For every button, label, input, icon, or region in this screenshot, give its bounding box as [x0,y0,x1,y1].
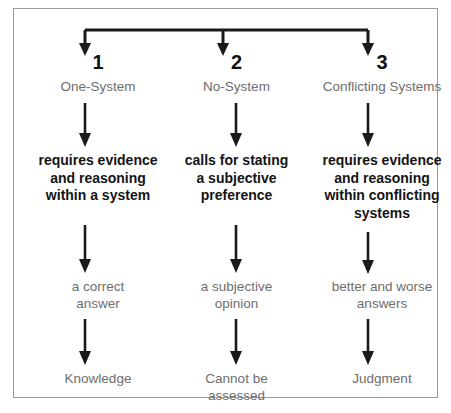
result-line: better and worse [297,278,451,295]
result-line: answer [19,295,177,312]
outcome-text: Judgment [297,370,451,387]
system-label: One-System [19,79,177,94]
diagram-frame: 1 One-System requires evidence and reaso… [13,8,438,398]
description-line: within conflicting [297,187,451,205]
outcome-line: Cannot be [164,370,309,387]
result-line: answers [297,295,451,312]
outcome-text: Cannot be assessed [164,370,309,404]
arrow-label-to-description [19,103,177,149]
column-numeral: 3 [297,51,451,74]
description-line: and reasoning [297,170,451,188]
outcome-line: Judgment [297,370,451,387]
description-line: and reasoning [19,170,177,188]
arrow-description-to-result [19,225,177,275]
description-line: calls for stating [164,152,309,170]
description-line: requires evidence [19,152,177,170]
description-line: preference [164,187,309,205]
column-numeral: 2 [164,51,309,74]
result-line: a subjective [164,278,309,295]
arrow-label-to-description [164,103,309,149]
description-text: requires evidence and reasoning within a… [19,152,177,205]
outcome-line: Knowledge [19,370,177,387]
system-label: Conflicting Systems [297,79,451,94]
result-text: better and worse answers [297,278,451,312]
arrow-label-to-description [297,103,451,149]
description-line: systems [297,205,451,223]
description-text: requires evidence and reasoning within c… [297,152,451,222]
description-line: a subjective [164,170,309,188]
result-text: a correct answer [19,278,177,312]
description-line: requires evidence [297,152,451,170]
arrow-description-to-result [164,225,309,275]
result-line: opinion [164,295,309,312]
column-numeral: 1 [19,51,177,74]
arrow-result-to-outcome [19,319,177,367]
outcome-text: Knowledge [19,370,177,387]
outcome-line: assessed [164,387,309,404]
arrow-result-to-outcome [297,319,451,367]
result-text: a subjective opinion [164,278,309,312]
description-line: within a system [19,187,177,205]
arrow-description-to-result [297,232,451,276]
result-line: a correct [19,278,177,295]
description-text: calls for stating a subjective preferenc… [164,152,309,205]
arrow-result-to-outcome [164,319,309,367]
system-label: No-System [164,79,309,94]
